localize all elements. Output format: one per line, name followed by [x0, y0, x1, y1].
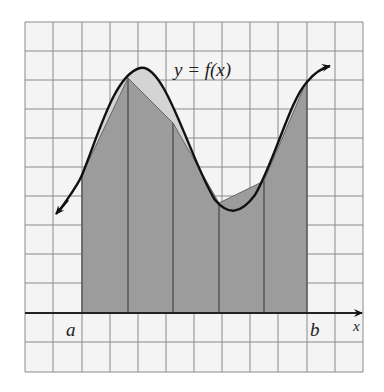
curve-label: y = f(x): [172, 59, 231, 81]
x-axis-label: x: [352, 318, 360, 334]
label-b: b: [310, 319, 320, 340]
label-a: a: [66, 319, 76, 340]
trapezoid-rule-figure: y = f(x) a b x: [0, 0, 384, 392]
